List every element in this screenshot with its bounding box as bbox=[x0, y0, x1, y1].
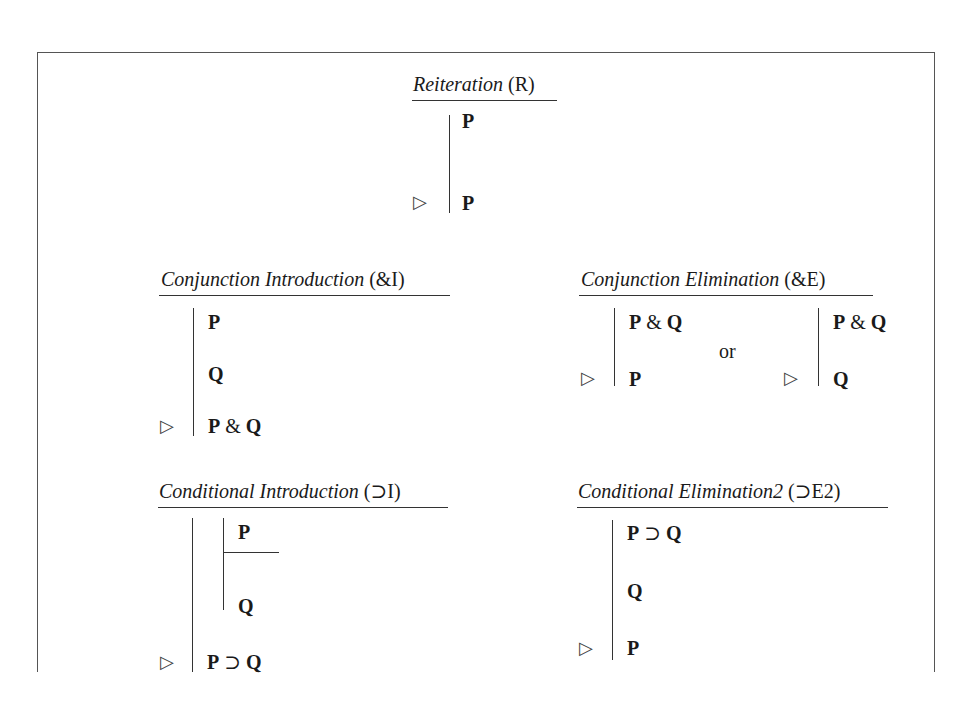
premise: P&Q bbox=[833, 312, 886, 332]
conclusion: P⊃Q bbox=[207, 652, 262, 672]
premise: P&Q bbox=[629, 312, 682, 332]
horseshoe-icon: ⊃ bbox=[219, 651, 246, 673]
therefore-icon: ▷ bbox=[160, 653, 174, 671]
formula-left: P bbox=[833, 311, 845, 333]
ampersand-icon: & bbox=[845, 311, 871, 333]
title-underline bbox=[412, 100, 557, 101]
or-separator: or bbox=[719, 341, 736, 361]
subproof-result: Q bbox=[238, 596, 254, 616]
premise: Q bbox=[208, 364, 224, 384]
rule-title-reiteration: Reiteration (R) bbox=[413, 74, 535, 94]
rule-title-cond-intro: Conditional Introduction (⊃I) bbox=[159, 481, 401, 501]
premise: P bbox=[462, 111, 474, 131]
rule-title-conj-intro: Conjunction Introduction (&I) bbox=[161, 269, 405, 289]
rule-name: Reiteration bbox=[413, 73, 503, 95]
formula-left: P bbox=[208, 415, 220, 437]
assumption-line bbox=[223, 552, 279, 553]
therefore-icon: ▷ bbox=[413, 193, 427, 211]
rule-name: Conjunction Introduction bbox=[161, 268, 364, 290]
therefore-icon: ▷ bbox=[160, 417, 174, 435]
horseshoe-icon: ⊃ bbox=[639, 522, 666, 544]
formula-left: P bbox=[627, 522, 639, 544]
rule-name: Conjunction Elimination bbox=[581, 268, 779, 290]
premise: Q bbox=[627, 581, 643, 601]
ampersand-icon: & bbox=[641, 311, 667, 333]
subproof-bar bbox=[223, 518, 224, 610]
conclusion: P&Q bbox=[208, 416, 261, 436]
rule-abbr: (&E) bbox=[784, 268, 825, 290]
proof-bar bbox=[192, 518, 193, 672]
formula-right: Q bbox=[667, 311, 683, 333]
rule-title-conj-elim: Conjunction Elimination (&E) bbox=[581, 269, 825, 289]
proof-bar bbox=[612, 520, 613, 660]
rule-abbr: (⊃I) bbox=[364, 480, 401, 502]
rule-abbr: (&I) bbox=[369, 268, 405, 290]
rule-abbr: (⊃E2) bbox=[788, 480, 840, 502]
conclusion: Q bbox=[833, 369, 849, 389]
therefore-icon: ▷ bbox=[579, 639, 593, 657]
ampersand-icon: & bbox=[220, 415, 246, 437]
title-underline bbox=[579, 295, 873, 296]
conclusion: P bbox=[462, 193, 474, 213]
premise: P⊃Q bbox=[627, 523, 682, 543]
formula-left: P bbox=[207, 651, 219, 673]
proof-bar bbox=[818, 308, 819, 386]
rule-name: Conditional Elimination2 bbox=[578, 480, 783, 502]
rule-title-cond-elim2: Conditional Elimination2 (⊃E2) bbox=[578, 481, 840, 501]
proof-bar bbox=[449, 115, 450, 213]
formula-left: P bbox=[629, 311, 641, 333]
title-underline bbox=[159, 295, 450, 296]
therefore-icon: ▷ bbox=[784, 369, 798, 387]
assumption: P bbox=[238, 522, 250, 542]
rules-frame bbox=[37, 52, 935, 672]
formula-right: Q bbox=[666, 522, 682, 544]
title-underline bbox=[158, 507, 448, 508]
therefore-icon: ▷ bbox=[581, 369, 595, 387]
conclusion: P bbox=[627, 638, 639, 658]
formula-right: Q bbox=[246, 651, 262, 673]
conclusion: P bbox=[629, 369, 641, 389]
formula-right: Q bbox=[871, 311, 887, 333]
premise: P bbox=[208, 312, 220, 332]
title-underline bbox=[577, 507, 888, 508]
formula-right: Q bbox=[246, 415, 262, 437]
rule-name: Conditional Introduction bbox=[159, 480, 359, 502]
proof-bar bbox=[193, 308, 194, 436]
rule-abbr: (R) bbox=[508, 73, 535, 95]
proof-bar bbox=[614, 308, 615, 386]
